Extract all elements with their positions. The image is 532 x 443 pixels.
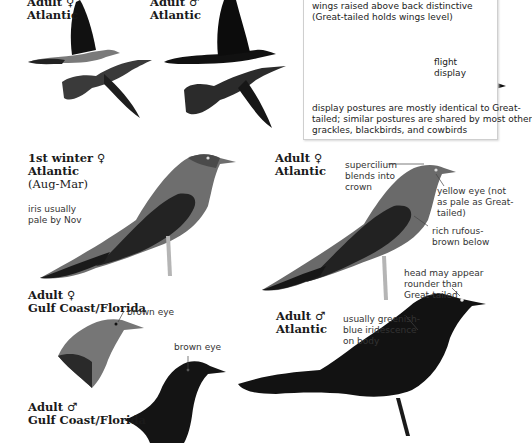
label-title: Adult ♂ [28, 400, 77, 414]
label-title: 1st winter ♀ [28, 151, 106, 165]
box-caption-bottom: display postures are mostly identical to… [312, 103, 532, 136]
label-flight-adult-male: Adult ♂ Atlantic [150, 0, 201, 22]
note-line: tailed) [437, 208, 514, 219]
note-line: rich rufous- [432, 226, 489, 237]
flight-display-label: flight display [434, 57, 466, 79]
label-region: Gulf Coast/Florida [28, 414, 146, 427]
label-season: (Aug-Mar) [28, 178, 106, 191]
caption-line: display postures are mostly identical to… [312, 103, 532, 114]
label-region: Atlantic [27, 9, 78, 22]
caption-line: grackles, blackbirds, and cowbirds [312, 125, 532, 136]
note-line: as pale as Great- [437, 197, 514, 208]
bird-flight-male-lower-icon [184, 66, 286, 128]
label-region: Atlantic [275, 165, 326, 178]
caption-line: (Great-tailed holds wings level) [312, 12, 473, 23]
note-line: brown below [432, 237, 489, 248]
note-brown-eye-female: brown eye [127, 307, 174, 318]
box-caption-top: wings raised above back distinctive (Gre… [312, 1, 473, 23]
note-line: usually greenish- [343, 314, 420, 325]
label-title: Adult ♀ [275, 151, 322, 165]
note-line: Great-tailed [404, 290, 484, 301]
note-head-rounder: head may appear rounder than Great-taile… [404, 268, 484, 301]
caption-line: wings raised above back distinctive [312, 1, 473, 12]
note-brown-eye-male: brown eye [174, 342, 221, 353]
note-line: supercilium [345, 160, 397, 171]
bird-adult-female-gulf-head-icon [58, 319, 144, 388]
note-line: blue iridescence [343, 325, 420, 336]
note-supercilium: supercilium blends into crown [345, 160, 397, 193]
note-rufous-below: rich rufous- brown below [432, 226, 489, 248]
note-line: head may appear [404, 268, 484, 279]
bird-flight-female-lower-icon [62, 60, 152, 118]
label-title: Adult ♂ [276, 309, 325, 323]
note-line: blends into [345, 171, 397, 182]
display-postures-box: wings raised above back distinctive (Gre… [303, 0, 498, 140]
note-iris-pale: iris usually pale by Nov [28, 204, 82, 226]
caption-line: flight [434, 57, 466, 68]
caption-line: tailed; similar postures are shared by m… [312, 114, 532, 125]
label-flight-adult-female: Adult ♀ Atlantic [27, 0, 78, 22]
note-line: pale by Nov [28, 215, 82, 226]
note-line: iris usually [28, 204, 82, 215]
caption-line: display [434, 68, 466, 79]
note-line: on body [343, 336, 420, 347]
label-region: Atlantic [276, 323, 327, 336]
note-line: yellow eye (not [437, 186, 514, 197]
note-iridescence: usually greenish- blue iridescence on bo… [343, 314, 420, 347]
note-line: rounder than [404, 279, 484, 290]
label-title: Adult ♀ [28, 288, 75, 302]
label-first-winter-female: 1st winter ♀ Atlantic (Aug-Mar) [28, 152, 106, 191]
label-adult-male-atlantic: Adult ♂ Atlantic [276, 310, 327, 336]
note-yellow-eye: yellow eye (not as pale as Great- tailed… [437, 186, 514, 219]
label-adult-female-atlantic: Adult ♀ Atlantic [275, 152, 326, 178]
label-region: Atlantic [150, 9, 201, 22]
note-line: crown [345, 182, 397, 193]
label-adult-male-gulf: Adult ♂ Gulf Coast/Florida [28, 401, 146, 427]
